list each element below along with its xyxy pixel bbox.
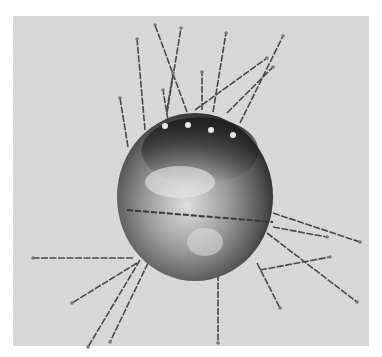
sphere-electrode-figure [0, 0, 382, 357]
wire-tip [281, 34, 285, 38]
electrode-dot [185, 122, 191, 128]
wire-tip [278, 306, 282, 310]
wire-tip [224, 31, 228, 35]
wire-tip [161, 88, 165, 92]
wire-tip [118, 96, 122, 100]
electrode-dot [162, 123, 168, 129]
wire-tip [216, 341, 220, 345]
wire-tip [265, 56, 269, 60]
sphere-highlight [187, 228, 223, 256]
electrode-dot [230, 132, 236, 138]
sphere-highlight [145, 166, 215, 198]
wire-tip [135, 37, 139, 41]
electrode-dot [208, 127, 214, 133]
wire-tip [355, 300, 359, 304]
wire-tip [70, 301, 74, 305]
wire-tip [31, 256, 35, 260]
wire-tip [153, 23, 157, 27]
wire-tip [108, 340, 112, 344]
wire-tip [171, 71, 175, 75]
wire-tip [86, 345, 90, 349]
wire-tip [358, 240, 362, 244]
wire-tip [325, 235, 329, 239]
wire-tip [200, 70, 204, 74]
wire-tip [271, 65, 275, 69]
wire-tip [328, 255, 332, 259]
figure [0, 0, 382, 357]
wire-tip [179, 26, 183, 30]
